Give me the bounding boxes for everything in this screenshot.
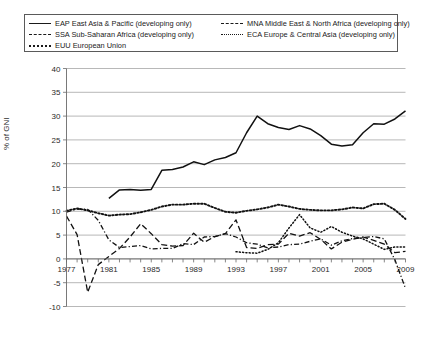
y-tick-label: 25 <box>52 136 61 145</box>
x-axis-ticks: 197719811985198919931997200120052009 <box>58 259 415 274</box>
y-tick-label: 30 <box>52 112 61 121</box>
x-tick-label: 1997 <box>269 265 287 274</box>
y-axis-ticks: -10-50510152025303540 <box>49 65 67 312</box>
y-tick-label: 20 <box>52 160 61 169</box>
x-tick-label: 1989 <box>185 265 203 274</box>
plot-area: -10-50510152025303540 197719811985198919… <box>0 0 421 349</box>
series-line-eap <box>109 111 406 199</box>
x-tick-label: 2001 <box>312 265 330 274</box>
x-tick-label: 2005 <box>354 265 372 274</box>
y-tick-label: -10 <box>49 303 61 312</box>
y-tick-label: -5 <box>53 279 61 288</box>
y-tick-label: 0 <box>56 255 61 264</box>
x-tick-label: 1981 <box>100 265 118 274</box>
y-tick-label: 35 <box>52 88 61 97</box>
y-tick-label: 10 <box>52 207 61 216</box>
x-tick-label: 1993 <box>227 265 245 274</box>
y-tick-label: 15 <box>52 184 61 193</box>
y-tick-label: 40 <box>52 65 61 74</box>
chart-container: EAP East Asia & Pacific (developing only… <box>0 0 421 349</box>
x-tick-label: 1985 <box>142 265 160 274</box>
y-tick-label: 5 <box>56 231 61 240</box>
series-line-mna <box>67 216 406 292</box>
